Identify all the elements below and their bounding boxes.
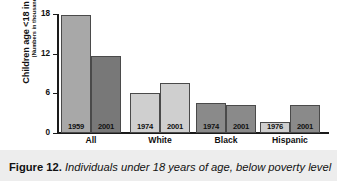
y-axis-tick-mark: [53, 54, 58, 55]
bar-hispanic-2001: 2001: [290, 105, 320, 133]
bar-all-2001: 2001: [91, 56, 121, 133]
bar-year-label: 1974: [197, 122, 225, 131]
figure-panel: Children age <18 in poverty (Numbers in …: [0, 0, 337, 181]
bar-year-label: 1974: [131, 122, 159, 131]
bar-year-label: 2001: [161, 122, 189, 131]
bar-series: 19592001197420011974200119762001: [59, 14, 329, 133]
x-axis-label-hispanic: Hispanic: [260, 135, 320, 145]
y-axis-tick-label: 18: [28, 9, 50, 18]
x-axis-label-white: White: [130, 135, 190, 145]
bar-chart: Children age <18 in poverty (Numbers in …: [0, 0, 337, 147]
caption-description: Individuals under 18 years of age, below…: [62, 161, 331, 173]
caption-number: Figure 12.: [9, 161, 62, 173]
x-axis-label-all: All: [61, 135, 121, 145]
bar-hispanic-1976: 1976: [260, 122, 290, 133]
bar-all-1959: 1959: [61, 15, 91, 133]
bar-year-label: 1959: [62, 122, 90, 131]
bar-year-label: 2001: [92, 122, 120, 131]
y-axis-tick-mark: [53, 14, 58, 15]
y-axis-tick-label: 12: [28, 49, 50, 58]
bar-black-1974: 1974: [196, 103, 226, 133]
bar-black-2001: 2001: [226, 105, 256, 133]
bar-white-1974: 1974: [130, 93, 160, 133]
bar-year-label: 2001: [227, 122, 255, 131]
bar-white-2001: 2001: [160, 83, 190, 133]
y-axis-tick-mark: [53, 133, 58, 134]
y-axis-tick-label: 0: [28, 128, 50, 137]
x-axis-label-black: Black: [196, 135, 256, 145]
figure-caption: Figure 12. Individuals under 18 years of…: [0, 150, 337, 181]
bar-year-label: 1976: [261, 122, 289, 131]
bar-year-label: 2001: [291, 122, 319, 131]
y-axis-tick-mark: [53, 93, 58, 94]
y-axis-tick-label: 6: [28, 88, 50, 97]
